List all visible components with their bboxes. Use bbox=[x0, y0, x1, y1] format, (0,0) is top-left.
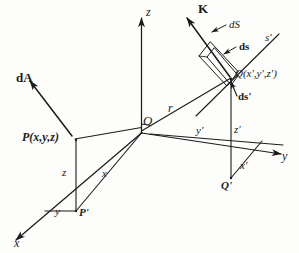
axis-x-label: x bbox=[14, 237, 19, 249]
edge-pprime-to-origin bbox=[76, 133, 142, 211]
leader-dS bbox=[212, 25, 226, 32]
vector-diagram-figure: z y x O P(x,y,z) P' z x y r dA K dS ds d… bbox=[0, 0, 299, 253]
vector-dA-label: dA bbox=[16, 71, 33, 84]
vector-r-line bbox=[142, 78, 232, 131]
axis-x-line bbox=[16, 133, 142, 240]
leg-z-label: z bbox=[62, 167, 66, 178]
element-dS-slab bbox=[199, 42, 238, 86]
axis-z-prime-label: z' bbox=[234, 124, 241, 135]
vector-K-line bbox=[187, 18, 230, 77]
vector-dA-line bbox=[30, 81, 72, 136]
element-ds-label: ds bbox=[239, 41, 249, 52]
axis-y-prime-line bbox=[150, 134, 283, 145]
point-q-prime-label: Q' bbox=[221, 180, 232, 191]
vector-K-label: K bbox=[198, 2, 208, 15]
leg-y-label: y bbox=[55, 206, 60, 217]
leader-ds bbox=[224, 47, 236, 54]
point-q-dot bbox=[230, 78, 232, 80]
point-q-label: Q(x',y',z') bbox=[235, 68, 277, 79]
point-p-prime-dot bbox=[75, 210, 77, 212]
vector-ds-prime-line bbox=[231, 82, 237, 96]
origin-label: O bbox=[143, 114, 152, 127]
axis-x-prime-label: x' bbox=[240, 160, 247, 171]
axis-z-label: z bbox=[146, 6, 151, 18]
edge-p-to-zaxis bbox=[75, 128, 142, 140]
element-dS-label: dS bbox=[229, 19, 240, 30]
point-p-label: P(x,y,z) bbox=[22, 131, 59, 143]
vector-r-label: r bbox=[168, 102, 173, 114]
element-ds-prime-label: ds' bbox=[238, 91, 251, 102]
leg-x-label: x bbox=[102, 168, 107, 179]
origin-dot bbox=[140, 132, 142, 134]
axis-s-prime-label: s' bbox=[265, 32, 272, 43]
axis-y-prime-label: y' bbox=[196, 125, 203, 136]
point-p-dot bbox=[75, 139, 77, 141]
axis-y-label: y bbox=[282, 150, 287, 162]
point-p-prime-label: P' bbox=[79, 207, 89, 218]
